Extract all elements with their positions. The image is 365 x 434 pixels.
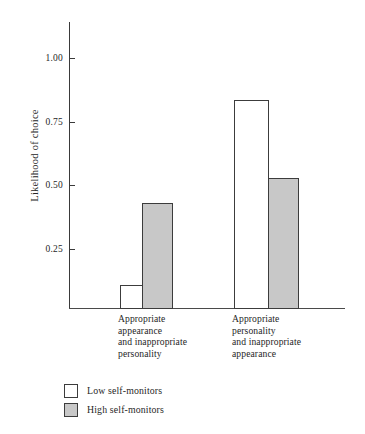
bar-group1-low-self-monitors bbox=[120, 285, 143, 309]
legend-swatch-high-icon bbox=[64, 403, 78, 417]
x-axis-line bbox=[69, 308, 345, 309]
category-label-group-2: Appropriate personality and inappropriat… bbox=[232, 313, 347, 359]
y-tick-mark-2 bbox=[69, 122, 75, 123]
bar-group1-high-self-monitors bbox=[142, 203, 173, 309]
bar-chart-figure: Likelihood of choice 1.00 0.75 0.50 0.25… bbox=[0, 0, 365, 434]
legend-item-low-self-monitors: Low self-monitors bbox=[64, 381, 164, 400]
y-axis-title: Likelihood of choice bbox=[29, 61, 40, 251]
y-tick-label-0.50: 0.50 bbox=[31, 180, 63, 190]
legend: Low self-monitors High self-monitors bbox=[64, 381, 164, 419]
y-axis-line bbox=[69, 22, 70, 309]
y-tick-mark-4 bbox=[69, 249, 75, 250]
legend-item-high-self-monitors: High self-monitors bbox=[64, 400, 164, 419]
y-tick-label-0.75: 0.75 bbox=[31, 117, 63, 127]
legend-label-high-self-monitors: High self-monitors bbox=[87, 404, 164, 415]
y-tick-mark-1 bbox=[69, 58, 75, 59]
y-tick-mark-3 bbox=[69, 185, 75, 186]
bar-group2-low-self-monitors bbox=[234, 100, 269, 309]
category-label-group-1: Appropriate appearance and inappropriate… bbox=[118, 313, 228, 359]
legend-swatch-low-icon bbox=[64, 384, 78, 398]
legend-label-low-self-monitors: Low self-monitors bbox=[87, 385, 162, 396]
y-tick-label-1.00: 1.00 bbox=[31, 53, 63, 63]
bar-group2-high-self-monitors bbox=[268, 178, 299, 309]
y-tick-label-0.25: 0.25 bbox=[31, 244, 63, 254]
